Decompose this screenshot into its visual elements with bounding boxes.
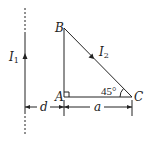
vertex-label-B: B	[55, 22, 64, 34]
current-arrow-up-icon	[23, 53, 28, 59]
dim-arrow-a-right-icon	[127, 105, 132, 109]
angle-arc-icon	[120, 89, 124, 98]
angle-C-label: 45°	[101, 86, 116, 97]
vertex-label-C: C	[134, 91, 143, 103]
right-angle-mark	[64, 92, 69, 97]
side-BC-hypotenuse	[64, 28, 132, 97]
dimension-a-label: a	[94, 101, 101, 113]
dim-arrow-d-left-icon	[25, 105, 30, 109]
triangle-wire-diagram	[0, 0, 147, 141]
dim-arrow-d-right-icon	[59, 105, 64, 109]
wire-current-label: I1	[9, 51, 19, 65]
dim-arrow-a-left-icon	[64, 105, 69, 109]
vertex-label-A: A	[55, 91, 64, 103]
hypotenuse-current-label: I2	[99, 46, 109, 60]
dimension-d-label: d	[40, 101, 48, 113]
